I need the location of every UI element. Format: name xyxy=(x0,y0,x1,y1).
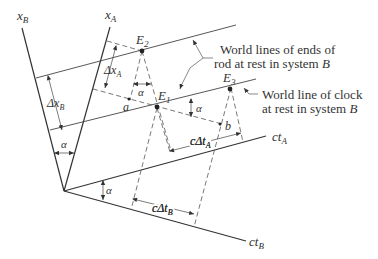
ctB-axis xyxy=(64,191,246,241)
ctA-axis-label: ctA xyxy=(272,129,287,146)
c-delta-tB-label: cΔtB xyxy=(152,201,173,217)
point-b xyxy=(219,123,222,126)
rod-annotation-line2: rod at rest in system B xyxy=(214,56,330,71)
alpha-label-origin: α xyxy=(106,184,112,196)
alpha-label-axes-top: α xyxy=(61,138,67,150)
event-E2 xyxy=(140,49,145,54)
E3-label: E3 xyxy=(222,70,236,87)
alpha-label-E2: α xyxy=(138,86,144,98)
delta-xB-label: ΔxB xyxy=(46,96,64,112)
alpha-label-E1: α xyxy=(196,102,202,114)
E1-label: E1 xyxy=(157,88,170,105)
xB-axis-label: xB xyxy=(16,8,29,25)
point-a-label: a xyxy=(123,100,129,114)
dimension-arrows xyxy=(48,46,241,214)
E2-label: E2 xyxy=(135,32,149,49)
point-b-label: b xyxy=(225,119,231,133)
delta-xA-label: ΔxA xyxy=(103,63,121,79)
xA-axis-label: xA xyxy=(104,7,117,24)
clock-annotation-line1: World line of clock xyxy=(262,87,363,102)
c-delta-tA-label-text: cΔtA xyxy=(190,134,211,150)
xA-axis xyxy=(64,27,110,191)
spacetime-diagram: xB xA ctA ctB E2 E1 E3 a b xyxy=(0,0,378,259)
rod-annotation-line1: World lines of ends of xyxy=(220,42,336,57)
clock-annotation-line2: at rest in system B xyxy=(262,101,357,116)
event-E3 xyxy=(228,87,233,92)
event-E1 xyxy=(155,105,160,110)
ctA-axis xyxy=(64,136,266,191)
ctB-axis-label: ctB xyxy=(249,234,264,251)
